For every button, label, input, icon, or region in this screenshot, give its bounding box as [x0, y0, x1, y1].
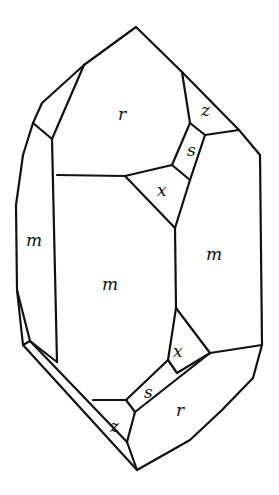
crystal-drawing: rzsxmmmxsrz: [0, 0, 279, 495]
edge-x-top-left: [125, 176, 175, 228]
edge-z-top-bottom: [205, 130, 239, 135]
edge-x-top-right: [172, 165, 190, 228]
face-label-s-bottom: s: [144, 382, 153, 402]
edge-s-bottom-cap: [126, 400, 135, 412]
crystal-outline: [16, 27, 262, 470]
edge-s-top-cap: [190, 123, 205, 135]
face-label-r-bottom: r: [176, 400, 185, 420]
face-label-x-bottom: x: [173, 341, 183, 361]
face-label-z-top: z: [200, 100, 211, 120]
edge-center-vertical: [175, 228, 176, 308]
face-label-r-top: r: [118, 104, 127, 124]
edge-upper-left-inner: [52, 65, 84, 362]
edge-m-top: [57, 165, 172, 176]
face-label-s-top: s: [187, 140, 196, 160]
face-label-m-right: m: [206, 244, 222, 264]
edge-upper-left-cross: [33, 123, 52, 139]
face-label-m-center: m: [102, 274, 118, 294]
face-label-z-bottom: z: [109, 416, 120, 436]
face-label-x-top: x: [157, 180, 167, 200]
edge-lower-left-cross: [23, 341, 30, 345]
edge-lower-left-m: [30, 341, 57, 362]
crystal-diagram: rzsxmmmxsrz: [0, 0, 279, 495]
face-label-m-left: m: [26, 230, 42, 250]
